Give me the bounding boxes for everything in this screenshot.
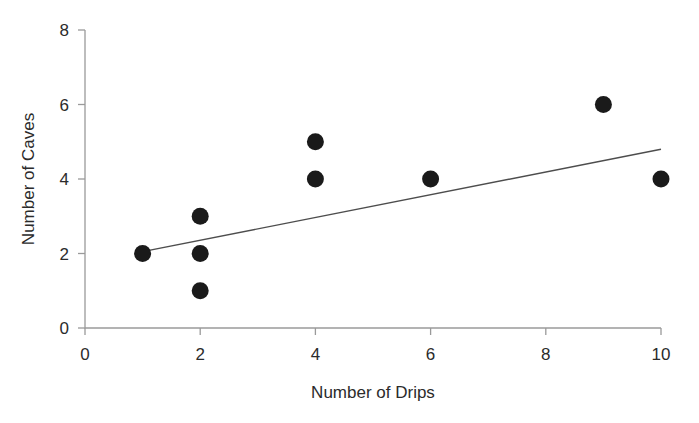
y-tick-label: 2	[60, 245, 69, 264]
y-axis-title: Number of Caves	[19, 113, 38, 245]
trend-line-segment	[143, 149, 661, 251]
data-point	[307, 133, 324, 150]
y-tick-label: 6	[60, 96, 69, 115]
data-points	[134, 96, 669, 299]
x-tick-labels: 0246810	[80, 345, 670, 364]
scatter-plot-figure: 0246810 02468 Number of Drips Number of …	[0, 0, 699, 423]
data-point	[422, 171, 439, 188]
x-axis-title: Number of Drips	[311, 383, 435, 402]
x-tick-label: 2	[195, 345, 204, 364]
plot-canvas: 0246810 02468 Number of Drips Number of …	[0, 0, 699, 423]
data-point	[134, 245, 151, 262]
y-tick-labels: 02468	[60, 21, 69, 338]
axes	[85, 30, 661, 328]
y-tick-label: 0	[60, 319, 69, 338]
data-point	[192, 245, 209, 262]
y-tick-label: 4	[60, 170, 69, 189]
data-point	[595, 96, 612, 113]
x-tick-label: 0	[80, 345, 89, 364]
data-point	[653, 171, 670, 188]
x-tick-label: 10	[652, 345, 671, 364]
data-point	[192, 282, 209, 299]
x-tick-label: 4	[311, 345, 320, 364]
data-point	[192, 208, 209, 225]
y-tick-label: 8	[60, 21, 69, 40]
x-tick-label: 8	[541, 345, 550, 364]
trend-line	[143, 149, 661, 251]
x-tick-label: 6	[426, 345, 435, 364]
tick-marks	[78, 30, 661, 335]
data-point	[307, 171, 324, 188]
